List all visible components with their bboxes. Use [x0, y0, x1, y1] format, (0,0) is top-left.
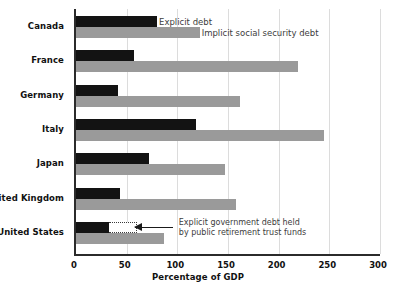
bar-explicit-debt	[76, 50, 134, 61]
bar-group	[76, 119, 382, 141]
bar-group	[76, 50, 382, 72]
x-tick-0: 0	[54, 260, 94, 270]
category-label-united-states: United States	[0, 227, 64, 237]
x-tick-300: 300	[358, 260, 396, 270]
annotation-arrow	[135, 227, 173, 228]
bar-group	[76, 85, 382, 107]
category-label-france: France	[0, 55, 64, 65]
bar-implicit-social-security-debt	[76, 96, 240, 107]
category-label-canada: Canada	[0, 21, 64, 31]
category-label-italy: Italy	[0, 124, 64, 134]
bar-explicit-debt	[76, 16, 157, 27]
x-axis-title: Percentage of GDP	[0, 272, 396, 282]
x-tick-200: 200	[257, 260, 297, 270]
bar-implicit-social-security-debt	[76, 61, 298, 72]
annotation-line-2: by public retirement trust funds	[179, 228, 306, 238]
bar-explicit-debt	[76, 85, 118, 96]
bar-group	[76, 153, 382, 175]
bar-explicit-debt	[76, 188, 120, 199]
x-tick-50: 50	[105, 260, 145, 270]
category-label-united-kingdom: United Kingdom	[0, 193, 64, 203]
bar-implicit-social-security-debt	[76, 27, 200, 38]
bar-implicit-social-security-debt	[76, 233, 164, 244]
annotation-line-1: Explicit government debt held	[179, 218, 306, 228]
bar-explicit-debt	[76, 153, 149, 164]
category-label-germany: Germany	[0, 90, 64, 100]
legend-label-implicit-social-security-debt: Implicit social security debt	[202, 28, 319, 38]
bar-explicit-debt-solid	[76, 222, 109, 233]
category-label-japan: Japan	[0, 158, 64, 168]
bar-group	[76, 188, 382, 210]
x-tick-100: 100	[155, 260, 195, 270]
annotation-trust-funds: Explicit government debt held by public …	[179, 218, 306, 238]
legend-label-explicit-debt: Explicit debt	[159, 17, 212, 27]
x-tick-250: 250	[307, 260, 347, 270]
horizontal-bar-chart: CanadaFranceGermanyItalyJapanUnited King…	[0, 0, 396, 286]
x-tick-150: 150	[206, 260, 246, 270]
bar-explicit-debt	[76, 222, 137, 233]
bar-implicit-social-security-debt	[76, 130, 324, 141]
bar-implicit-social-security-debt	[76, 164, 225, 175]
bar-implicit-social-security-debt	[76, 199, 236, 210]
bar-explicit-debt	[76, 119, 196, 130]
bar-trust-fund-held-debt	[109, 222, 136, 233]
